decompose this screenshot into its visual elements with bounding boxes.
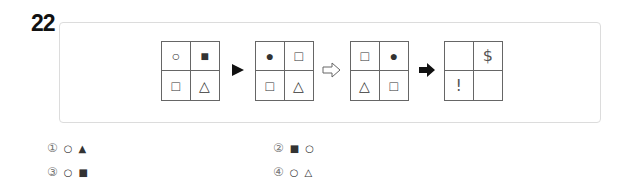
square-filled-icon: ■ <box>290 143 299 154</box>
triangle-outline-icon: △ <box>199 79 210 93</box>
square-outline-icon: □ <box>172 79 180 93</box>
option-4[interactable]: ④ ○ △ <box>273 165 312 179</box>
question-number: 22 <box>31 10 55 37</box>
circle-outline-icon: ○ <box>305 143 314 154</box>
grid-cell <box>474 71 503 100</box>
grid-cell: □ <box>351 42 380 71</box>
grid-cell: ! <box>445 71 474 100</box>
grid-cell: △ <box>285 71 314 100</box>
hollow-arrow-right-icon <box>322 61 342 79</box>
option-2[interactable]: ② ■ ○ <box>273 141 314 155</box>
square-outline-icon: □ <box>266 79 274 93</box>
grid-cell: □ <box>256 71 285 100</box>
option-3[interactable]: ③ ○ ■ <box>47 165 88 179</box>
circle-outline-icon: ○ <box>64 167 73 178</box>
grid-cell: △ <box>191 71 220 100</box>
option-1[interactable]: ① ○ ▲ <box>47 141 86 155</box>
grid-4: $ ! <box>444 41 503 101</box>
grid-2: ● □ □ △ <box>255 41 314 101</box>
grid-cell: □ <box>162 71 191 100</box>
exclamation-mark: ! <box>456 78 462 94</box>
square-outline-icon: □ <box>295 49 303 63</box>
option-number: ④ <box>273 165 284 179</box>
square-outline-icon: □ <box>361 49 369 63</box>
grid-cell: △ <box>351 71 380 100</box>
triangle-outline-icon: △ <box>359 79 370 93</box>
grid-cell: ■ <box>191 42 220 71</box>
grid-3: □ ● △ □ <box>350 41 409 101</box>
triangle-filled-icon: ▲ <box>79 143 87 154</box>
grid-cell: ● <box>380 42 409 71</box>
option-number: ① <box>47 141 58 155</box>
square-filled-icon: ■ <box>201 49 209 63</box>
option-number: ② <box>273 141 284 155</box>
grid-cell <box>445 42 474 71</box>
circle-filled-icon: ● <box>390 49 398 63</box>
grid-cell: □ <box>380 71 409 100</box>
dollar-sign: $ <box>483 48 493 64</box>
triangle-outline-icon: △ <box>305 167 313 178</box>
circle-outline-icon: ○ <box>172 49 180 63</box>
circle-outline-icon: ○ <box>64 143 73 154</box>
triangle-right-filled-icon <box>229 61 247 79</box>
grid-cell: □ <box>285 42 314 71</box>
grid-1: ○ ■ □ △ <box>161 41 220 101</box>
square-filled-icon: ■ <box>79 167 88 178</box>
grid-cell: $ <box>474 42 503 71</box>
circle-outline-icon: ○ <box>290 167 299 178</box>
square-outline-icon: □ <box>390 79 398 93</box>
grid-cell: ● <box>256 42 285 71</box>
grid-cell: ○ <box>162 42 191 71</box>
bold-arrow-right-icon <box>418 61 436 79</box>
circle-filled-icon: ● <box>266 49 274 63</box>
triangle-outline-icon: △ <box>293 79 304 93</box>
option-number: ③ <box>47 165 58 179</box>
